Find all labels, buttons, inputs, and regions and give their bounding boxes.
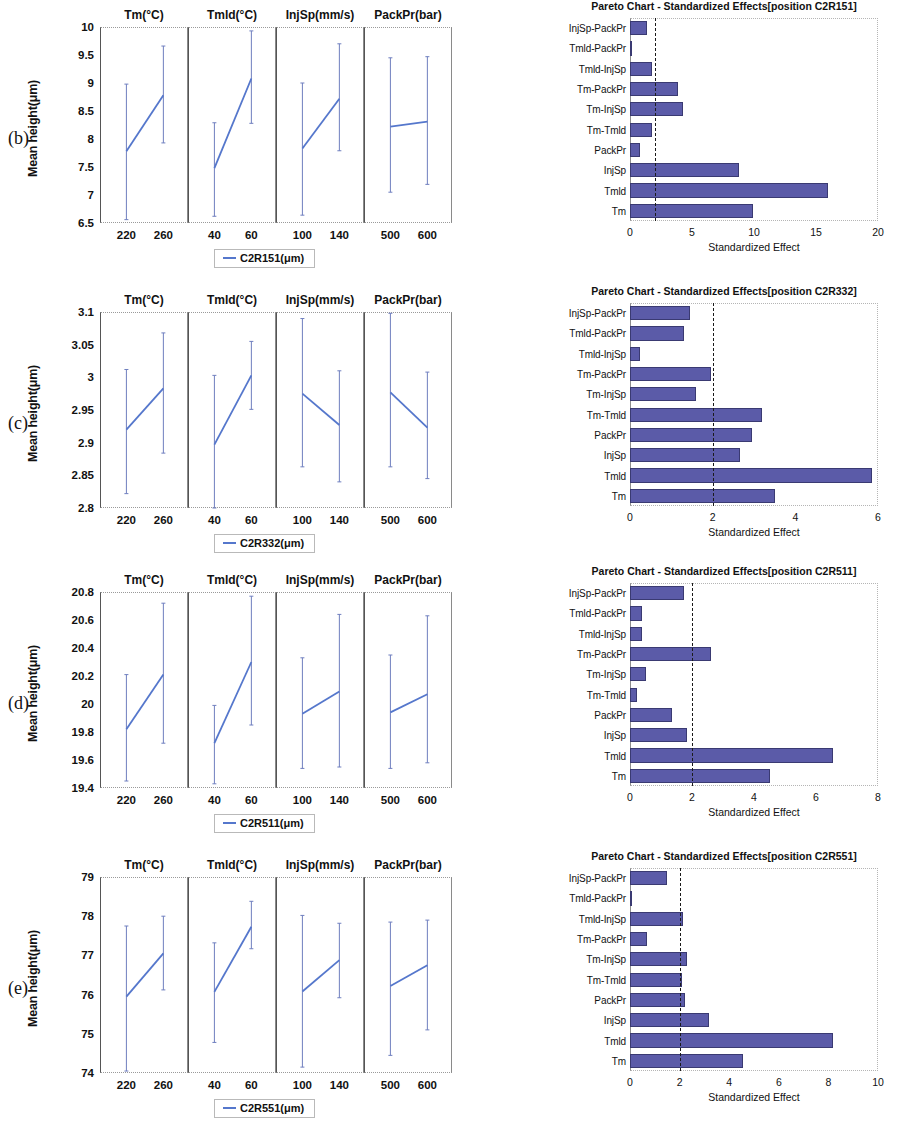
pareto-x-tick: 5 <box>689 226 695 238</box>
pareto-category-label: Tmld-InjSp <box>550 913 626 924</box>
pareto-category-label: Tm-PackPr <box>550 369 626 380</box>
pareto-category-label: InjSp-PackPr <box>550 23 626 34</box>
pareto-x-tick: 0 <box>627 1076 633 1088</box>
pareto-x-tick: 6 <box>813 791 819 803</box>
pareto-plot-area <box>630 303 878 506</box>
pareto-title: Pareto Chart - Standardized Effects[posi… <box>550 565 897 577</box>
pareto-category-label: InjSp <box>550 1015 626 1026</box>
pareto-x-tick: 8 <box>825 1076 831 1088</box>
pareto-bar <box>630 387 696 401</box>
pareto-x-tick: 2 <box>710 511 716 523</box>
significance-threshold-line <box>713 303 714 506</box>
pareto-bar <box>630 891 632 905</box>
pareto-x-tick: 4 <box>751 791 757 803</box>
pareto-category-label: Tmld <box>550 470 626 481</box>
pareto-bar <box>630 102 683 116</box>
pareto-chart-4: Pareto Chart - Standardized Effects[posi… <box>0 850 897 1131</box>
pareto-category-label: InjSp <box>550 450 626 461</box>
pareto-bar <box>630 163 739 177</box>
panel-b: (b)Mean height(μm)6.577.588.599.510Tm(°C… <box>0 0 897 280</box>
panel-e: (e)Mean height(μm)747576777879Tm(°C)2202… <box>0 850 897 1131</box>
pareto-chart-3: Pareto Chart - Standardized Effects[posi… <box>0 565 897 850</box>
pareto-bar <box>630 586 684 600</box>
pareto-category-label: Tm-Tmld <box>550 124 626 135</box>
pareto-title: Pareto Chart - Standardized Effects[posi… <box>550 0 897 12</box>
pareto-x-tick: 0 <box>627 511 633 523</box>
pareto-bar <box>630 408 762 422</box>
pareto-x-axis-label: Standardized Effect <box>630 241 878 253</box>
pareto-title: Pareto Chart - Standardized Effects[posi… <box>550 285 897 297</box>
pareto-plot-area <box>630 18 878 221</box>
pareto-x-axis-label: Standardized Effect <box>630 526 878 538</box>
pareto-x-tick: 8 <box>875 791 881 803</box>
pareto-plot-area <box>630 583 878 786</box>
pareto-category-label: Tm-InjSp <box>550 389 626 400</box>
pareto-category-label: Tm <box>550 490 626 501</box>
pareto-bar <box>630 468 872 482</box>
pareto-bar <box>630 306 690 320</box>
pareto-category-label: Tm-InjSp <box>550 669 626 680</box>
pareto-category-label: Tm <box>550 205 626 216</box>
pareto-x-tick: 2 <box>677 1076 683 1088</box>
significance-threshold-line <box>692 583 693 786</box>
significance-threshold-line <box>680 868 681 1071</box>
pareto-bar <box>630 1054 743 1068</box>
pareto-category-label: InjSp-PackPr <box>550 873 626 884</box>
pareto-bar <box>630 326 684 340</box>
pareto-category-label: Tmld-PackPr <box>550 608 626 619</box>
pareto-category-label: InjSp-PackPr <box>550 588 626 599</box>
pareto-category-label: Tm-PackPr <box>550 84 626 95</box>
pareto-category-label: Tm-InjSp <box>550 104 626 115</box>
pareto-category-label: Tmld <box>550 185 626 196</box>
pareto-bar <box>630 647 711 661</box>
pareto-plot-area <box>630 868 878 1071</box>
pareto-category-label: PackPr <box>550 994 626 1005</box>
pareto-x-tick: 0 <box>627 791 633 803</box>
pareto-bar <box>630 1033 833 1047</box>
pareto-x-tick: 2 <box>689 791 695 803</box>
panel-c: (c)Mean height(μm)2.82.852.92.9533.053.1… <box>0 285 897 565</box>
pareto-category-label: InjSp <box>550 730 626 741</box>
pareto-x-tick: 10 <box>748 226 760 238</box>
pareto-category-label: PackPr <box>550 709 626 720</box>
pareto-category-label: Tm <box>550 770 626 781</box>
pareto-category-label: Tmld-PackPr <box>550 43 626 54</box>
pareto-bar <box>630 367 711 381</box>
pareto-bar <box>630 21 647 35</box>
pareto-bar <box>630 448 740 462</box>
pareto-chart-1: Pareto Chart - Standardized Effects[posi… <box>0 0 897 280</box>
pareto-category-label: Tmld-InjSp <box>550 348 626 359</box>
pareto-bar <box>630 183 828 197</box>
pareto-category-label: PackPr <box>550 429 626 440</box>
pareto-category-label: Tmld <box>550 750 626 761</box>
pareto-bar <box>630 1013 709 1027</box>
pareto-bar <box>630 912 683 926</box>
pareto-x-axis-label: Standardized Effect <box>630 806 878 818</box>
pareto-bar <box>630 952 687 966</box>
significance-threshold-line <box>655 18 656 221</box>
pareto-bar <box>630 667 646 681</box>
pareto-bar <box>630 143 640 157</box>
pareto-bar <box>630 606 642 620</box>
pareto-bar <box>630 871 667 885</box>
pareto-bar <box>630 932 647 946</box>
pareto-category-label: Tmld-PackPr <box>550 328 626 339</box>
pareto-bar <box>630 748 833 762</box>
pareto-x-tick: 4 <box>726 1076 732 1088</box>
pareto-category-label: Tmld <box>550 1035 626 1046</box>
pareto-category-label: Tm-Tmld <box>550 409 626 420</box>
pareto-x-tick: 20 <box>872 226 884 238</box>
figure-root: (b)Mean height(μm)6.577.588.599.510Tm(°C… <box>0 0 897 1131</box>
pareto-bar <box>630 708 672 722</box>
pareto-category-label: Tm-InjSp <box>550 954 626 965</box>
pareto-category-label: Tmld-InjSp <box>550 628 626 639</box>
pareto-category-label: InjSp-PackPr <box>550 308 626 319</box>
pareto-x-tick: 10 <box>872 1076 884 1088</box>
pareto-category-label: PackPr <box>550 144 626 155</box>
pareto-category-label: Tmld-InjSp <box>550 63 626 74</box>
pareto-bar <box>630 489 775 503</box>
pareto-x-tick: 6 <box>875 511 881 523</box>
pareto-category-label: Tm-Tmld <box>550 974 626 985</box>
pareto-x-axis-label: Standardized Effect <box>630 1091 878 1103</box>
pareto-bar <box>630 347 640 361</box>
